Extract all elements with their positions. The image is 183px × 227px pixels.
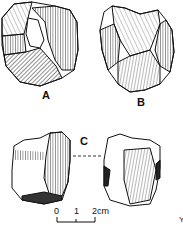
artifact-c-left-drawing <box>12 132 70 204</box>
scale-tick-0: 0 <box>54 207 59 216</box>
corner-mark: Y <box>179 216 183 224</box>
label-a: A <box>42 90 50 101</box>
artifact-a-drawing <box>2 2 78 86</box>
artifact-drawings <box>0 0 183 227</box>
scale-bar <box>57 217 95 222</box>
scale-tick-1: 1 <box>74 207 79 216</box>
scale-tick-2: 2cm <box>92 207 109 216</box>
label-b: B <box>137 97 145 108</box>
label-c: C <box>80 136 88 147</box>
artifact-c-right-drawing <box>104 134 160 206</box>
artifact-b-drawing <box>100 6 174 92</box>
